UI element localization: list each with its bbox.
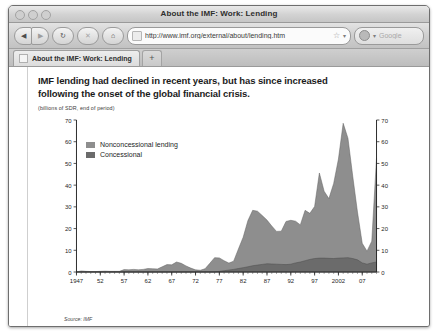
legend-label-concessional: Concessional <box>100 151 142 158</box>
bookmark-star-icon[interactable]: ☆ <box>333 31 340 40</box>
chevron-down-icon[interactable]: ▾ <box>343 32 346 39</box>
y-tick-label-right: 30 <box>381 203 388 210</box>
site-favicon-icon <box>132 31 142 41</box>
close-button[interactable] <box>15 10 25 20</box>
x-tick-label: 82 <box>240 277 247 284</box>
screen: About the IMF: Work: Lending ◀ ▶ ↻ ✕ ⌂ h… <box>0 0 436 333</box>
tab-label: About the IMF: Work: Lending <box>32 55 132 62</box>
window-title: About the IMF: Work: Lending <box>9 6 429 22</box>
legend-label-nonconcessional: Nonconcessional lending <box>100 141 178 148</box>
x-tick-label: 62 <box>145 277 152 284</box>
x-tick-label: 67 <box>168 277 175 284</box>
y-tick-label-right: 0 <box>381 268 385 275</box>
legend-item-concessional: Concessional <box>86 151 178 158</box>
search-box[interactable]: ▾ Google <box>354 27 424 45</box>
address-bar[interactable]: http://www.imf.org/external/about/lendin… <box>127 27 351 45</box>
page-left-gutter <box>9 67 28 327</box>
search-input[interactable]: Google <box>379 32 402 39</box>
y-tick-label-left: 40 <box>65 182 72 189</box>
y-tick-label-left: 70 <box>65 116 72 123</box>
y-tick-label-left: 20 <box>65 225 72 232</box>
chart-legend: Nonconcessional lending Concessional <box>86 141 178 161</box>
chart-source-note: Source: IMF <box>64 316 92 322</box>
browser-window: About the IMF: Work: Lending ◀ ▶ ↻ ✕ ⌂ h… <box>8 5 430 327</box>
url-text[interactable]: http://www.imf.org/external/about/lendin… <box>145 32 330 39</box>
y-tick-label-right: 60 <box>381 138 388 145</box>
forward-button[interactable]: ▶ <box>31 27 49 45</box>
legend-swatch-nonconcessional <box>86 142 95 148</box>
page-content: IMF lending had declined in recent years… <box>9 67 429 327</box>
tab-bar: About the IMF: Work: Lending + <box>9 49 429 67</box>
y-tick-label-left: 60 <box>65 138 72 145</box>
y-tick-label-left: 30 <box>65 203 72 210</box>
reload-icon[interactable]: ↻ <box>52 27 74 45</box>
x-tick-label: 52 <box>97 277 104 284</box>
x-tick-label: 2002 <box>332 277 346 284</box>
y-tick-label-right: 50 <box>381 160 388 167</box>
page-body: IMF lending had declined in recent years… <box>28 67 429 327</box>
chart-title: IMF lending had declined in recent years… <box>38 75 338 100</box>
y-tick-label-left: 50 <box>65 160 72 167</box>
search-chevron-down-icon[interactable]: ▾ <box>373 32 376 39</box>
zoom-button[interactable] <box>41 10 51 20</box>
legend-swatch-concessional <box>86 152 95 158</box>
x-tick-label: 87 <box>264 277 271 284</box>
tab-lending[interactable]: About the IMF: Work: Lending <box>13 50 140 66</box>
x-tick-label: 57 <box>121 277 128 284</box>
window-titlebar: About the IMF: Work: Lending <box>9 6 429 23</box>
x-tick-label: 97 <box>311 277 318 284</box>
y-tick-label-right: 20 <box>381 225 388 232</box>
chart-subtitle: (billions of SDR, end of period) <box>38 105 415 111</box>
y-tick-label-right: 40 <box>381 182 388 189</box>
legend-item-nonconcessional: Nonconcessional lending <box>86 141 178 148</box>
google-icon <box>359 30 370 41</box>
tab-favicon-icon <box>19 54 28 63</box>
x-tick-label: 07 <box>359 277 366 284</box>
y-tick-label-left: 10 <box>65 247 72 254</box>
minimize-button[interactable] <box>28 10 38 20</box>
x-tick-label: 77 <box>216 277 223 284</box>
window-controls <box>15 10 51 20</box>
back-button[interactable]: ◀ <box>14 27 32 45</box>
y-tick-label-right: 10 <box>381 247 388 254</box>
y-tick-label-right: 70 <box>381 116 388 123</box>
x-tick-label: 92 <box>287 277 294 284</box>
x-tick-label: 1947 <box>70 277 84 284</box>
home-icon[interactable]: ⌂ <box>102 27 124 45</box>
chart-figure: 0010102020303040405050606070701947525762… <box>38 114 415 299</box>
x-tick-label: 72 <box>192 277 199 284</box>
y-tick-label-left: 0 <box>68 268 72 275</box>
stop-icon[interactable]: ✕ <box>77 27 99 45</box>
browser-toolbar: ◀ ▶ ↻ ✕ ⌂ http://www.imf.org/external/ab… <box>9 23 429 49</box>
new-tab-button[interactable]: + <box>142 50 162 66</box>
